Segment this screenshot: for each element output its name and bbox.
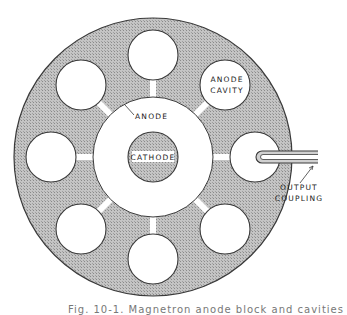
anode-cavity-label-line1: ANODE <box>210 75 243 84</box>
cathode: CATHODE <box>128 132 178 182</box>
output-coupling-label-line1: OUTPUT <box>280 183 318 192</box>
figure-caption: Fig. 10-1. Magnetron anode block and cav… <box>68 304 344 315</box>
output-coupling-label-line2: COUPLING <box>275 194 324 203</box>
cathode-label: CATHODE <box>131 153 176 162</box>
anode-cavity-label-line2: CAVITY <box>210 86 244 95</box>
anode-label: ANODE <box>135 112 168 121</box>
